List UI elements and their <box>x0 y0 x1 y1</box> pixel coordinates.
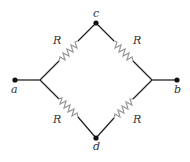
resistor-ad-label: R <box>53 114 61 125</box>
resistor-cb-label: R <box>133 35 141 46</box>
node-b-dot <box>174 77 179 82</box>
node-a-dot <box>12 77 17 82</box>
resistor-ac-label: R <box>53 35 61 46</box>
circuit-svg <box>0 0 190 162</box>
wire <box>40 61 59 80</box>
wire <box>133 80 152 99</box>
circuit-diagram: a b c d R R R R <box>0 0 190 162</box>
resistor-cb <box>114 41 133 61</box>
resistor-db-label: R <box>133 114 141 125</box>
wire <box>96 118 114 138</box>
node-a-label: a <box>11 84 18 95</box>
wire <box>78 23 96 41</box>
wire <box>40 80 59 99</box>
resistor-db <box>114 99 133 118</box>
wire <box>96 23 114 41</box>
resistor-ac <box>59 41 78 61</box>
node-c-dot <box>93 20 98 25</box>
resistor-ad <box>59 98 78 117</box>
node-c-label: c <box>93 8 99 19</box>
node-b-label: b <box>174 84 181 95</box>
wire <box>133 61 152 80</box>
wire <box>78 117 96 138</box>
node-d-label: d <box>93 141 100 152</box>
